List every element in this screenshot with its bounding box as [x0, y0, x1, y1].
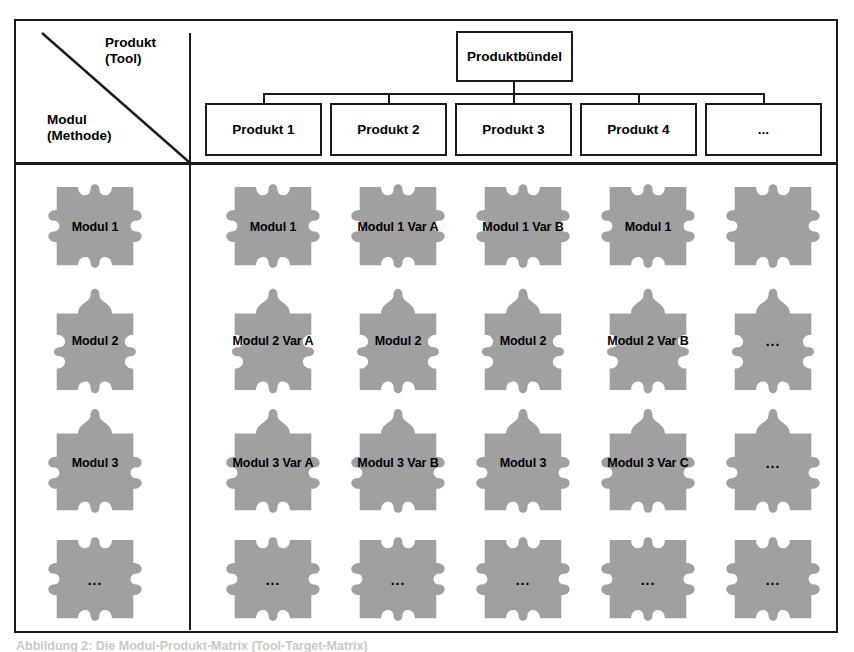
matrix-cell-r2c1[interactable]: Modul 2 Var A: [208, 282, 338, 400]
puzzle-piece-icon: [208, 521, 338, 639]
figure-caption: Abbildung 2: Die Modul-Produkt-Matrix (T…: [16, 639, 368, 652]
row-header-cell-modul-3[interactable]: Modul 3: [30, 404, 160, 522]
puzzle-piece-icon: [208, 282, 338, 400]
matrix-cell-r2c2[interactable]: Modul 2: [333, 282, 463, 400]
column-header-produkt-1[interactable]: Produkt 1: [205, 103, 322, 156]
puzzle-piece-icon: [30, 404, 160, 522]
puzzle-piece-icon: [458, 521, 588, 639]
figure-canvas: Produkt (Tool) Modul (Methode) Produktbü…: [0, 0, 854, 652]
puzzle-piece-icon: [708, 168, 838, 286]
puzzle-piece-icon: [708, 404, 838, 522]
matrix-cell-r1c4[interactable]: Modul 1: [583, 168, 713, 286]
matrix-cell-r3c1[interactable]: Modul 3 Var A: [208, 404, 338, 522]
matrix-cell-r2c4[interactable]: Modul 2 Var B: [583, 282, 713, 400]
matrix-cell-r4c3[interactable]: ...: [458, 521, 588, 639]
puzzle-piece-icon: [30, 168, 160, 286]
matrix-cell-r3c4[interactable]: Modul 3 Var C: [583, 404, 713, 522]
row-header-cell-more[interactable]: ...: [30, 521, 160, 639]
matrix-cell-r1c2[interactable]: Modul 1 Var A: [333, 168, 463, 286]
puzzle-piece-icon: [208, 404, 338, 522]
column-header-produkt-2[interactable]: Produkt 2: [330, 103, 447, 156]
puzzle-piece-icon: [458, 168, 588, 286]
puzzle-piece-icon: [583, 404, 713, 522]
puzzle-piece-icon: [458, 282, 588, 400]
puzzle-piece-icon: [30, 521, 160, 639]
row-header-cell-modul-1[interactable]: Modul 1: [30, 168, 160, 286]
column-header-produkt-3[interactable]: Produkt 3: [455, 103, 572, 156]
matrix-cell-r1c3[interactable]: Modul 1 Var B: [458, 168, 588, 286]
puzzle-piece-icon: [708, 282, 838, 400]
puzzle-piece-icon: [583, 521, 713, 639]
puzzle-piece-icon: [583, 282, 713, 400]
puzzle-piece-icon: [333, 282, 463, 400]
matrix-cell-r2c3[interactable]: Modul 2: [458, 282, 588, 400]
puzzle-piece-icon: [333, 168, 463, 286]
matrix-cell-r4c1[interactable]: ...: [208, 521, 338, 639]
puzzle-piece-icon: [208, 168, 338, 286]
puzzle-piece-icon: [458, 404, 588, 522]
matrix-cell-r1c5[interactable]: [708, 168, 838, 286]
matrix-cell-r3c2[interactable]: Modul 3 Var B: [333, 404, 463, 522]
row-header-cell-modul-2[interactable]: Modul 2: [30, 282, 160, 400]
puzzle-piece-icon: [333, 404, 463, 522]
matrix-cell-r1c1[interactable]: Modul 1: [208, 168, 338, 286]
matrix-cell-r4c5[interactable]: ...: [708, 521, 838, 639]
rows-axis-label: Modul (Methode): [47, 112, 112, 144]
matrix-cell-r4c4[interactable]: ...: [583, 521, 713, 639]
puzzle-piece-icon: [333, 521, 463, 639]
matrix-cell-r3c3[interactable]: Modul 3: [458, 404, 588, 522]
column-header-produkt-more[interactable]: ...: [705, 103, 822, 156]
puzzle-piece-icon: [583, 168, 713, 286]
matrix-cell-r2c5[interactable]: ...: [708, 282, 838, 400]
puzzle-piece-icon: [708, 521, 838, 639]
node-produktbuendel[interactable]: Produktbündel: [456, 31, 573, 82]
column-header-produkt-4[interactable]: Produkt 4: [580, 103, 697, 156]
matrix-cell-r3c5[interactable]: ...: [708, 404, 838, 522]
matrix-cell-r4c2[interactable]: ...: [333, 521, 463, 639]
puzzle-piece-icon: [30, 282, 160, 400]
columns-axis-label: Produkt (Tool): [105, 35, 156, 67]
